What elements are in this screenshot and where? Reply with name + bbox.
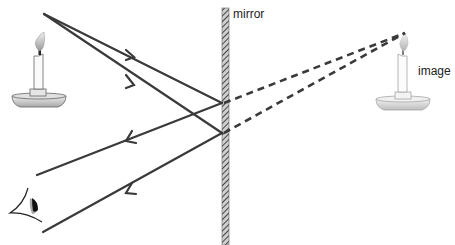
- plane-mirror: [222, 8, 229, 245]
- incident-rays: [44, 14, 222, 133]
- candle-object-icon: [12, 32, 66, 107]
- reflected-rays: [37, 103, 222, 232]
- eye-icon: [10, 188, 42, 222]
- reflection-diagram: [0, 0, 455, 245]
- mirror-label: mirror: [233, 7, 264, 21]
- arrow-icon: [126, 75, 134, 88]
- image-label: image: [418, 64, 451, 78]
- virtual-rays: [224, 33, 405, 133]
